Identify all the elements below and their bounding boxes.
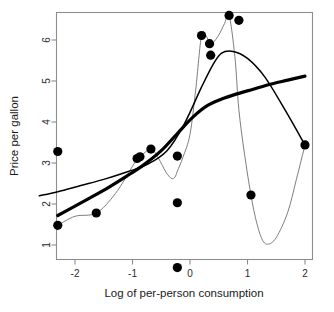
y-tick-label: 2 (41, 201, 52, 207)
y-tick-label: 3 (41, 160, 52, 166)
y-tick-label: 1 (41, 242, 52, 248)
data-point (92, 208, 101, 217)
curve-thick-smooth-fit (58, 76, 305, 215)
x-axis-tick-marks (75, 260, 305, 265)
x-tick-label: 2 (302, 268, 308, 279)
x-tick-label: 0 (187, 268, 193, 279)
data-point (53, 221, 62, 230)
y-tick-label: 6 (41, 37, 52, 43)
data-point (146, 144, 155, 153)
x-axis-tick-labels: -2-1012 (71, 268, 309, 279)
chart-container: -2-1012 123456 Log of per-person consump… (0, 0, 334, 312)
plot-frame (57, 13, 313, 260)
fitted-curves-layer (39, 14, 305, 244)
data-point (246, 190, 255, 199)
data-point (135, 152, 144, 161)
y-axis-tick-labels: 123456 (41, 37, 52, 248)
x-tick-label: -1 (128, 268, 137, 279)
data-point (53, 147, 62, 156)
data-point (234, 16, 243, 25)
x-tick-label: 1 (245, 268, 251, 279)
data-point (205, 39, 214, 48)
x-tick-label: -2 (71, 268, 80, 279)
y-axis-label: Price per gallon (8, 96, 20, 176)
curve-medium-fit (39, 51, 305, 196)
y-tick-label: 4 (41, 119, 52, 125)
data-point (173, 263, 182, 272)
data-point (225, 11, 234, 20)
data-point (300, 140, 309, 149)
y-tick-label: 5 (41, 78, 52, 84)
data-point (197, 31, 206, 40)
data-point (206, 51, 215, 60)
data-point (173, 198, 182, 207)
data-point (173, 151, 182, 160)
scatter-plot-svg: -2-1012 123456 Log of per-person consump… (0, 0, 334, 312)
data-points-layer (53, 11, 309, 272)
x-axis-label: Log of per-person consumption (104, 287, 263, 299)
y-axis-tick-marks (52, 40, 57, 245)
